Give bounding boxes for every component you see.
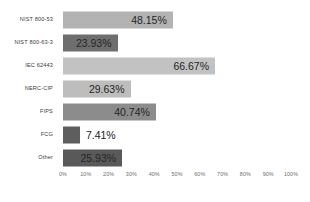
bar[interactable]: 29.63% — [63, 80, 131, 97]
plot-area: NIST 800-5348.15%NIST 800-63-323.93%IEC … — [0, 0, 310, 170]
category-label: NERC-CIP — [0, 86, 58, 92]
x-axis-tick-label: 0% — [59, 172, 67, 177]
category-label: FIPS — [0, 109, 58, 115]
bar-chart: NIST 800-5348.15%NIST 800-63-323.93%IEC … — [0, 0, 310, 202]
bar-row: NIST 800-63-323.93% — [0, 31, 310, 54]
x-axis-tick-label: 40% — [149, 172, 160, 177]
category-label: Other — [0, 155, 58, 161]
bar-row: FCG7.41% — [0, 123, 310, 146]
x-axis-tick-label: 100% — [284, 172, 298, 177]
bar[interactable]: 7.41% — [63, 126, 80, 143]
category-label: NIST 800-53 — [0, 17, 58, 23]
category-label: IEC 62443 — [0, 63, 58, 69]
x-axis-tick-label: 90% — [263, 172, 274, 177]
bar-track: 40.74% — [58, 100, 310, 123]
x-axis-tick-label: 80% — [240, 172, 251, 177]
bar[interactable]: 40.74% — [63, 103, 156, 120]
bar-track: 23.93% — [58, 31, 310, 54]
bar-value-label: 40.74% — [114, 106, 156, 117]
x-axis-tick-label: 70% — [217, 172, 228, 177]
bar-row: NIST 800-5348.15% — [0, 8, 310, 31]
bar-track: 29.63% — [58, 77, 310, 100]
category-label: FCG — [0, 132, 58, 138]
x-axis-tick-label: 10% — [80, 172, 91, 177]
bar[interactable]: 66.67% — [63, 57, 215, 74]
bar[interactable]: 25.93% — [63, 149, 122, 166]
bar-track: 48.15% — [58, 8, 310, 31]
bar-value-label: 29.63% — [89, 83, 131, 94]
bar-value-label: 25.93% — [80, 152, 122, 163]
bar[interactable]: 48.15% — [63, 11, 173, 28]
x-axis-tick-label: 30% — [126, 172, 137, 177]
bar-value-label: 23.93% — [76, 37, 118, 48]
bar-row: IEC 6244366.67% — [0, 54, 310, 77]
bar-value-label: 48.15% — [131, 14, 173, 25]
bar-row: Other25.93% — [0, 146, 310, 169]
bar-track: 7.41% — [58, 123, 310, 146]
bar-track: 25.93% — [58, 146, 310, 169]
bar-value-label: 66.67% — [173, 60, 215, 71]
bar-row: FIPS40.74% — [0, 100, 310, 123]
bar[interactable]: 23.93% — [63, 34, 118, 51]
bar-value-label: 7.41% — [80, 129, 116, 140]
x-axis: 0%10%20%30%40%50%60%70%80%90%100% — [0, 172, 310, 188]
category-label: NIST 800-63-3 — [0, 40, 58, 46]
x-axis-tick-label: 60% — [194, 172, 205, 177]
x-axis-tick-label: 20% — [103, 172, 114, 177]
x-axis-tick-label: 50% — [171, 172, 182, 177]
bar-track: 66.67% — [58, 54, 310, 77]
bar-row: NERC-CIP29.63% — [0, 77, 310, 100]
